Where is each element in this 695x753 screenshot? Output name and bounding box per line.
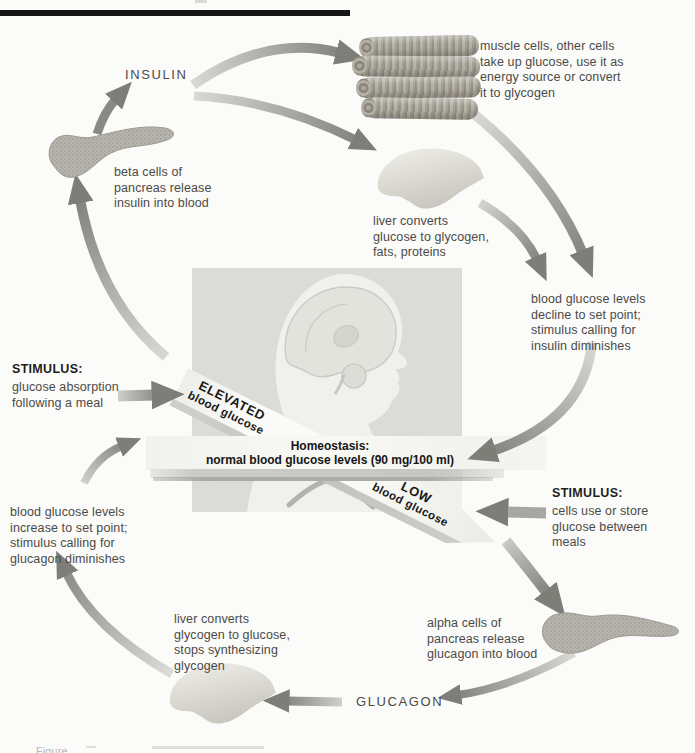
stimulus-left-title: STIMULUS:	[12, 362, 83, 376]
note-liver-glycogen: liver converts glucose to glycogen, fats…	[373, 214, 523, 261]
muscle-fiber	[359, 76, 481, 98]
note-glucose-increase: blood glucose levels increase to set poi…	[10, 505, 160, 567]
stimulus-left-body: glucose absorption following a meal	[12, 380, 152, 411]
glucagon-label: GLUCAGON	[356, 694, 443, 709]
note-glucose-decline: blood glucose levels decline to set poin…	[531, 292, 681, 354]
scan-smudge	[86, 746, 96, 748]
note-liver-glucose: liver converts glycogen to glucose, stop…	[174, 612, 334, 674]
note-muscle-cells: muscle cells, other cells take up glucos…	[480, 39, 650, 101]
diagram-canvas: ELEVATED blood glucose LOW blood glucose…	[0, 0, 695, 753]
arrow-decline-to-setpoint	[492, 342, 592, 451]
arrow-liver-upward	[66, 572, 172, 674]
insulin-label: INSULIN	[125, 67, 188, 82]
liver-top-icon	[374, 144, 496, 214]
arrow-to-beta-pancreas	[80, 199, 166, 357]
muscle-cells-icon	[353, 36, 485, 122]
arrow-insulin-to-muscle	[193, 48, 340, 85]
muscle-fiber	[355, 55, 480, 77]
figure-caption-fragment: Figure	[36, 745, 68, 753]
stimulus-right-body: cells use or store glucose between meals	[552, 504, 682, 551]
arrow-increase-upward	[84, 446, 122, 483]
arrow-insulin-to-liver	[194, 96, 356, 140]
note-beta-cells: beta cells of pancreas release insulin i…	[114, 165, 244, 212]
scan-smudge	[152, 746, 264, 749]
stimulus-right-title: STIMULUS:	[552, 486, 623, 500]
arrow-low-to-pancreas	[506, 541, 548, 594]
arrow-stimulus-right	[504, 512, 546, 513]
muscle-fiber	[364, 97, 478, 120]
arrow-glucagon-to-liver	[286, 701, 342, 702]
note-alpha-cells: alpha cells of pancreas release glucagon…	[427, 616, 577, 663]
